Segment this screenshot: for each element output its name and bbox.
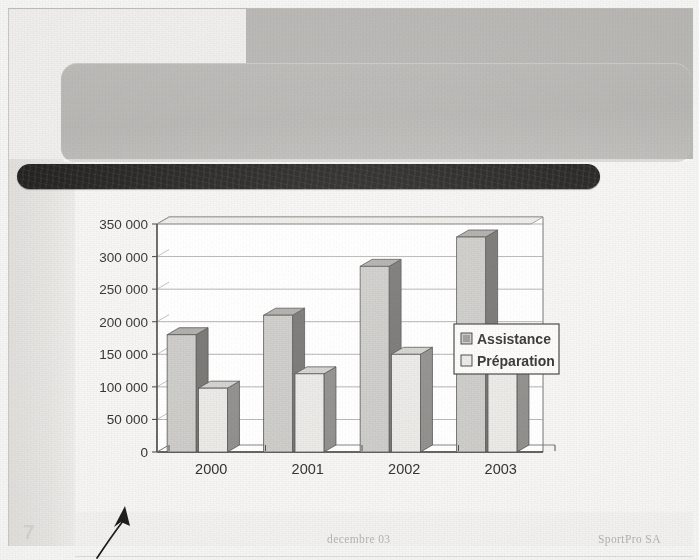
x-tick-label: 2002 [388, 461, 420, 477]
footer-organization: SportPro SA [598, 533, 661, 545]
y-tick-label: 350 000 [99, 217, 148, 232]
y-axis-tick-labels: 050 000100 000150 000200 000250 000300 0… [99, 217, 148, 460]
handdrawn-arrow-annotation [92, 500, 162, 560]
bar-préparation-2001 [295, 367, 336, 452]
x-tick-label: 2003 [485, 461, 517, 477]
slide-left-gutter [9, 159, 75, 546]
footer-divider [75, 556, 693, 557]
legend-swatch-inner [463, 335, 470, 342]
title-placeholder [61, 63, 691, 162]
legend-swatch [461, 355, 472, 366]
legend-label: Préparation [477, 353, 555, 369]
footer-date: decembre 03 [327, 533, 390, 545]
y-tick-label: 200 000 [99, 315, 148, 330]
y-tick-label: 100 000 [99, 380, 148, 395]
bar-préparation-2000 [198, 381, 239, 452]
bar-préparation-2002 [391, 347, 432, 452]
y-tick-label: 0 [140, 445, 148, 460]
slide-canvas: 7 050 000100 000150 000200 000250 000300… [8, 8, 693, 546]
redacted-title-bar [17, 164, 600, 189]
bar-chart: 050 000100 000150 000200 000250 000300 0… [73, 214, 563, 499]
x-tick-label: 2001 [292, 461, 324, 477]
y-tick-label: 150 000 [99, 347, 148, 362]
x-tick-label: 2000 [195, 461, 227, 477]
slide-number: 7 [23, 521, 35, 542]
scanned-slide-page: 7 050 000100 000150 000200 000250 000300… [0, 0, 699, 560]
legend-label: Assistance [477, 331, 551, 347]
x-axis-tick-labels: 2000200120022003 [195, 461, 517, 477]
chart-legend: AssistancePréparation [454, 324, 559, 374]
chart-svg: 050 000100 000150 000200 000250 000300 0… [73, 214, 563, 499]
y-tick-label: 300 000 [99, 250, 148, 265]
y-tick-label: 50 000 [107, 412, 148, 427]
y-tick-label: 250 000 [99, 282, 148, 297]
